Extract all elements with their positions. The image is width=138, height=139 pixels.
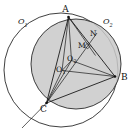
geometry-figure: A B C M N O 2 O 1 O 1 O 2 (0, 0, 138, 139)
label-center-o2-subscript: 2 (74, 58, 77, 64)
label-vertex-b: B (121, 72, 128, 82)
label-center-o1-subscript: 1 (63, 69, 66, 75)
inner-circle-o2 (31, 19, 121, 109)
label-vertex-a: A (61, 4, 69, 14)
label-point-n: N (90, 29, 97, 38)
label-center-o1-letter: O (56, 65, 62, 74)
label-point-m: M (78, 41, 86, 50)
vertex-dot-b (114, 75, 117, 78)
vertex-dot-a (67, 16, 70, 19)
label-circle-o2-subscript: 2 (109, 22, 113, 28)
label-circle-o1-subscript: 1 (25, 22, 28, 28)
label-center-o2-letter: O (67, 54, 73, 63)
label-vertex-c: C (40, 104, 47, 114)
geometry-canvas: A B C M N O 2 O 1 O 1 O 2 (0, 0, 138, 139)
